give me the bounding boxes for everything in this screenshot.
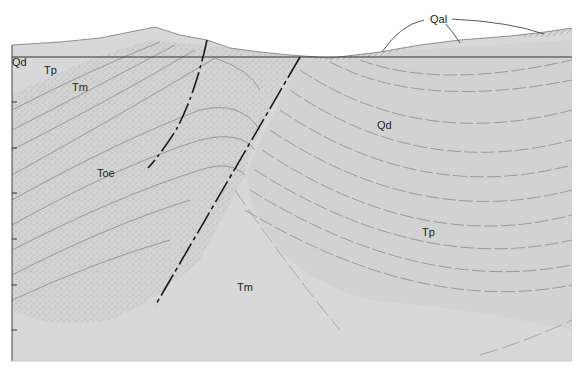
geologic-cross-section: Qd Tp Tm Toe Qd Tp Tm Qal	[0, 0, 582, 370]
unit-label-qal: Qal	[430, 13, 447, 25]
unit-label-tp-left: Tp	[44, 64, 57, 76]
unit-label-tm-left: Tm	[72, 81, 88, 93]
section-body	[0, 0, 582, 370]
unit-label-tp-right: Tp	[422, 226, 435, 238]
unit-label-toe: Toe	[97, 167, 115, 179]
unit-label-tm-bottom: Tm	[237, 281, 253, 293]
unit-label-qd: Qd	[12, 56, 27, 68]
unit-label-qd-right: Qd	[377, 119, 392, 131]
